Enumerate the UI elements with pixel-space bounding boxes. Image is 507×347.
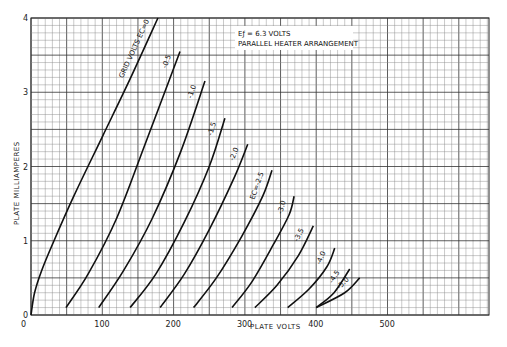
x-tick-label: 200 (166, 320, 181, 329)
graph-paper-grid (31, 18, 489, 315)
x-tick-label: 100 (94, 320, 109, 329)
x-tick-label: 500 (380, 320, 395, 329)
y-tick-label: 3 (23, 88, 28, 97)
y-tick-label: 2 (23, 163, 28, 172)
y-tick-label: 1 (23, 237, 28, 246)
x-axis-label: PLATE VOLTS (250, 323, 301, 331)
plate-characteristics-chart: Eƒ = 6.3 VOLTS PARALLEL HEATER ARRANGEME… (0, 0, 507, 347)
y-tick-label: 4 (23, 14, 28, 23)
annotation-box: Eƒ = 6.3 VOLTS PARALLEL HEATER ARRANGEME… (235, 26, 359, 50)
y-axis-label: PLATE MILLIAMPERES (13, 141, 21, 225)
y-tick-label: 0 (23, 311, 28, 320)
x-tick-label: 400 (308, 320, 323, 329)
heater-voltage-label: Eƒ = 6.3 VOLTS (238, 30, 291, 38)
x-tick-label: 0 (21, 320, 26, 329)
heater-arrangement-label: PARALLEL HEATER ARRANGEMENT (238, 40, 359, 48)
